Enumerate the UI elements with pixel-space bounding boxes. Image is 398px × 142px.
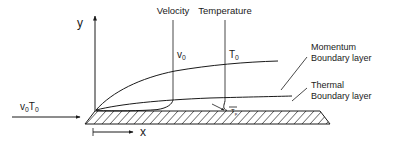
thermal-callout-leader xyxy=(292,88,307,101)
thermal-callout-line1: Thermal xyxy=(311,80,344,90)
inlet-temperature-sub: 0 xyxy=(35,106,39,113)
velocity-header-label: Velocity xyxy=(157,5,190,16)
temperature-wall-arrow xyxy=(212,104,224,110)
temperature-symbol-label: T0 xyxy=(229,49,239,61)
thermal-callout-line2: Boundary layer xyxy=(311,91,372,101)
thermal-boundary-layer-curve xyxy=(96,96,292,110)
temperature-profile-station: Tp xyxy=(212,20,238,116)
temperature-profile-curve xyxy=(224,101,227,111)
x-axis xyxy=(93,128,133,136)
momentum-callout-line1: Momentum xyxy=(311,42,356,52)
velocity-profile-station xyxy=(96,20,173,111)
x-axis-label: x xyxy=(140,125,146,139)
flat-plate xyxy=(70,111,338,124)
inlet-flow: v0T0 xyxy=(12,101,80,117)
velocity-symbol-sub: 0 xyxy=(182,54,186,61)
temperature-header-label: Temperature xyxy=(198,5,251,16)
y-axis-label: y xyxy=(77,16,83,30)
temperature-symbol-sub: 0 xyxy=(235,54,239,61)
momentum-callout-line2: Boundary layer xyxy=(311,53,372,63)
inlet-conditions-label: v0T0 xyxy=(20,101,39,113)
thermal-callout: Thermal Boundary layer xyxy=(292,80,372,101)
diagram-canvas: y x v0T0 Velocity v0 xyxy=(0,0,398,142)
boundary-layer-diagram: y x v0T0 Velocity v0 xyxy=(0,0,398,142)
momentum-boundary-layer-curve xyxy=(96,61,278,110)
velocity-symbol-label: v0 xyxy=(177,49,186,61)
velocity-profile-curve xyxy=(96,100,173,111)
momentum-callout-leader xyxy=(281,57,307,90)
